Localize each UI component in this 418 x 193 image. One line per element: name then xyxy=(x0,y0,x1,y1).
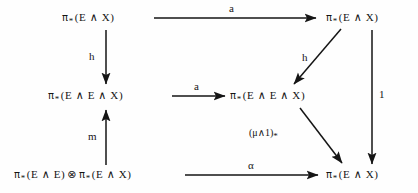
pi-symbol: π xyxy=(62,12,69,23)
node-bottom-right: π*(E ∧ X) xyxy=(326,169,378,183)
star-subscript: * xyxy=(69,17,74,26)
edge-label-mu-star: * xyxy=(273,131,278,141)
node-body: (E ∧ X) xyxy=(339,11,379,23)
star-subscript: * xyxy=(333,174,338,183)
star-subscript: * xyxy=(21,174,26,183)
tensor-icon: ⊗ xyxy=(65,168,79,181)
edge-label-bottom-horizontal: α xyxy=(248,160,254,171)
node-mid-left: π*(E ∧ E ∧ X) xyxy=(48,90,123,104)
star-subscript: * xyxy=(237,95,242,104)
pi-symbol: π xyxy=(326,169,333,180)
node-top-right: π*(E ∧ X) xyxy=(326,12,378,26)
node-body: (E ∧ X) xyxy=(339,168,379,180)
edge-diagonal-mu xyxy=(300,108,342,163)
commutative-diagram: π*(E ∧ X) π*(E ∧ X) π*(E ∧ E ∧ X) π*(E ∧… xyxy=(0,0,418,193)
edge-label-mid-horizontal: a xyxy=(194,81,199,92)
pi-symbol: π xyxy=(14,169,21,180)
star-subscript-second: * xyxy=(86,174,91,183)
node-body: (E ∧ E ∧ X) xyxy=(61,89,123,101)
edge-label-right-vertical-1: 1 xyxy=(379,89,385,100)
star-subscript: * xyxy=(333,17,338,26)
edge-label-top-horizontal: a xyxy=(229,3,234,14)
node-body: (E ∧ E ∧ X) xyxy=(243,89,305,101)
edge-label-diagonal-h: h xyxy=(302,52,308,63)
node-top-left: π*(E ∧ X) xyxy=(62,12,114,26)
edge-label-diagonal-mu: (μ∧1)* xyxy=(249,128,278,141)
node-bottom-left: π*(E ∧ E)⊗π*(E ∧ X) xyxy=(14,169,132,183)
node-body-left: (E ∧ E) xyxy=(27,168,66,180)
node-body: (E ∧ X) xyxy=(75,11,115,23)
star-subscript: * xyxy=(55,95,60,104)
pi-symbol: π xyxy=(326,12,333,23)
edge-label-mu-text: (μ∧1) xyxy=(249,127,273,138)
node-body-right: (E ∧ X) xyxy=(92,168,132,180)
pi-symbol: π xyxy=(48,90,55,101)
pi-symbol-second: π xyxy=(79,169,86,180)
edge-label-left-vertical-m: m xyxy=(88,131,97,142)
edge-label-left-vertical-h: h xyxy=(89,51,95,62)
pi-symbol: π xyxy=(230,90,237,101)
node-mid-right: π*(E ∧ E ∧ X) xyxy=(230,90,305,104)
